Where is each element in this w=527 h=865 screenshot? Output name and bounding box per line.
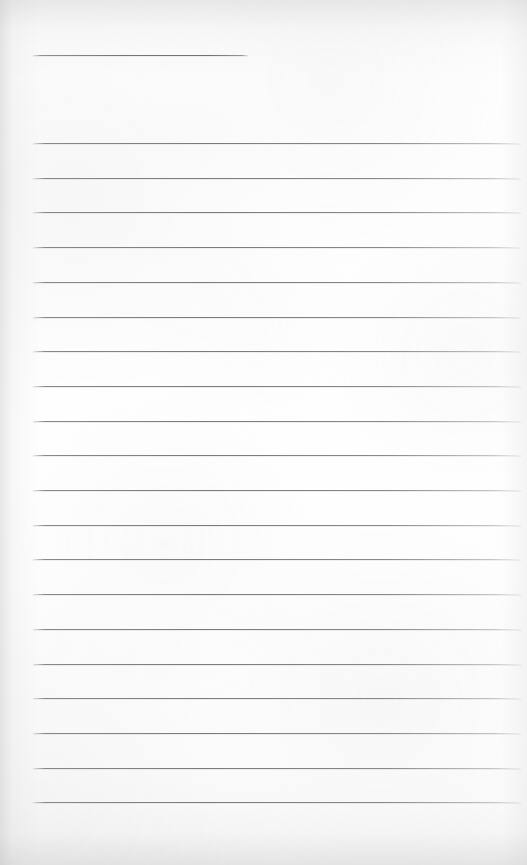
ruled-line-ink — [33, 455, 521, 456]
ruled-line — [33, 282, 521, 283]
paper-background — [0, 0, 527, 865]
ruled-line-ink — [33, 490, 521, 491]
ruled-line — [33, 212, 521, 213]
ruled-line — [33, 178, 521, 179]
ruled-line — [33, 629, 521, 630]
ruled-line — [33, 143, 521, 144]
ruled-line — [33, 802, 521, 803]
ruled-line — [33, 594, 521, 595]
ruled-line — [33, 559, 521, 560]
ruled-line — [33, 525, 521, 526]
ruled-line — [33, 386, 521, 387]
ruled-line-ink — [33, 802, 521, 803]
ruled-line — [33, 421, 521, 422]
ruled-line-ink — [33, 247, 521, 248]
ruled-line — [33, 768, 521, 769]
ruled-line — [33, 317, 521, 318]
ruled-line — [33, 455, 521, 456]
ruled-line — [33, 351, 521, 352]
ruled-line-ink — [33, 178, 521, 179]
ruled-line-ink — [33, 351, 521, 352]
ruled-line-ink — [33, 525, 521, 526]
ruled-line — [33, 247, 521, 248]
ruled-line-ink — [33, 594, 521, 595]
ruled-line — [33, 490, 521, 491]
ruled-line-ink — [33, 698, 521, 699]
ruled-line-ink — [33, 733, 521, 734]
ruled-line-ink — [33, 664, 521, 665]
ruled-line-ink — [33, 317, 521, 318]
ruled-line-ink — [33, 629, 521, 630]
ruled-line — [33, 733, 521, 734]
ruled-line-ink — [33, 143, 521, 144]
ruled-line-ink — [33, 559, 521, 560]
ruled-line-ink — [33, 386, 521, 387]
ruled-line — [33, 664, 521, 665]
ruled-line-ink — [33, 768, 521, 769]
ruled-line-ink — [33, 212, 521, 213]
header-rule — [33, 55, 248, 56]
ruled-line-ink — [33, 282, 521, 283]
ruled-line-ink — [33, 421, 521, 422]
ruled-line — [33, 698, 521, 699]
scanned-page — [0, 0, 527, 865]
header-rule-ink — [33, 55, 248, 56]
